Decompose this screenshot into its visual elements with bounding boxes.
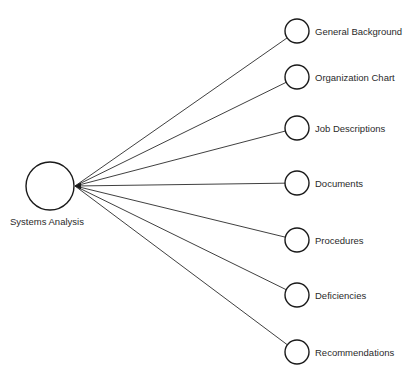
spoke-label: Procedures <box>315 235 364 246</box>
spoke-node-job-descriptions: Job Descriptions <box>285 116 385 140</box>
spoke-label: General Background <box>315 26 402 37</box>
spoke-label: Recommendations <box>315 347 394 358</box>
hub-circle <box>26 162 74 210</box>
connector-line <box>75 186 287 345</box>
spoke-nodes: General BackgroundOrganization ChartJob … <box>285 19 402 364</box>
spoke-circle <box>285 116 309 140</box>
connector-line <box>75 82 286 186</box>
spoke-circle <box>285 65 309 89</box>
spoke-circle <box>285 283 309 307</box>
hub-label: Systems Analysis <box>10 216 84 227</box>
spoke-label: Documents <box>315 178 363 189</box>
spoke-circle <box>285 228 309 252</box>
spoke-node-deficiencies: Deficiencies <box>285 283 366 307</box>
connector-line <box>75 186 286 290</box>
connector-line <box>75 183 285 186</box>
spoke-node-general-background: General Background <box>285 19 402 43</box>
spoke-label: Deficiencies <box>315 290 366 301</box>
connector-line <box>75 186 285 237</box>
systems-analysis-diagram: Systems Analysis General BackgroundOrgan… <box>0 0 410 382</box>
connector-line <box>75 131 285 186</box>
spoke-label: Job Descriptions <box>315 123 385 134</box>
spoke-node-procedures: Procedures <box>285 228 364 252</box>
spoke-circle <box>285 340 309 364</box>
connector-line <box>75 38 287 186</box>
spoke-node-recommendations: Recommendations <box>285 340 394 364</box>
spoke-node-organization-chart: Organization Chart <box>285 65 395 89</box>
connector-lines <box>75 38 287 345</box>
spoke-circle <box>285 171 309 195</box>
spoke-circle <box>285 19 309 43</box>
hub-node-systems-analysis: Systems Analysis <box>10 162 84 227</box>
spoke-node-documents: Documents <box>285 171 363 195</box>
spoke-label: Organization Chart <box>315 72 395 83</box>
